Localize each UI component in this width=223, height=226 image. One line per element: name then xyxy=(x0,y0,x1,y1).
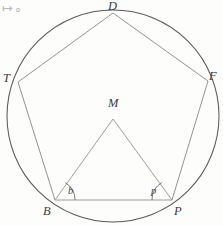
angle-label-b: b xyxy=(68,186,73,197)
vertex-label-P: P xyxy=(174,205,182,218)
vertex-label-D: D xyxy=(108,0,117,13)
vertex-label-T: T xyxy=(3,72,10,85)
vertex-label-F: F xyxy=(209,70,217,83)
angle-label-p: p xyxy=(151,186,156,197)
center-label-M: M xyxy=(108,97,118,110)
pentagon-side-T-B xyxy=(18,82,55,200)
geometry-figure: ↦∘ D T F B P M b p xyxy=(0,0,223,226)
vertex-label-B: B xyxy=(43,205,51,218)
circumcircle xyxy=(7,10,219,222)
figure-canvas xyxy=(0,0,223,226)
pentagon-side-F-P xyxy=(172,81,208,200)
triangle-leg-M-B xyxy=(55,119,113,200)
triangle-leg-M-P xyxy=(113,119,172,200)
